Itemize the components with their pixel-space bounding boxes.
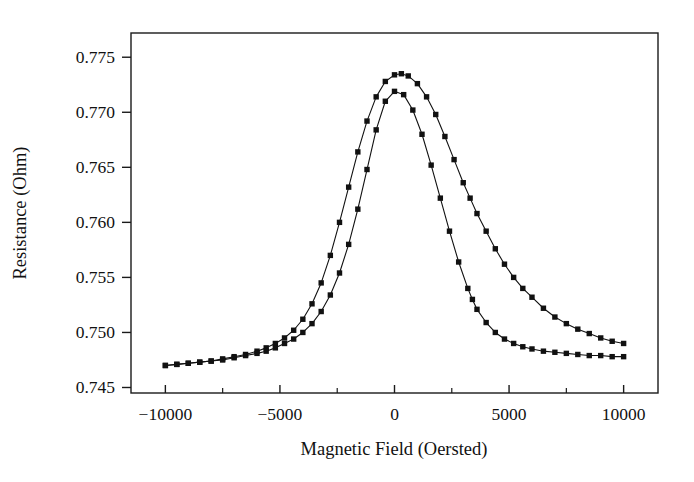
data-point-marker	[587, 353, 592, 358]
x-axis-ticks	[165, 385, 623, 393]
y-tick-label: 0.745	[76, 377, 116, 397]
plot-border	[131, 33, 658, 393]
x-axis-title: Magnetic Field (Oersted)	[301, 439, 488, 460]
data-point-marker	[552, 314, 557, 319]
data-series-layer	[163, 71, 627, 368]
data-point-marker	[529, 295, 534, 300]
y-tick-label: 0.755	[76, 267, 116, 287]
x-tick-label: 10000	[602, 404, 646, 424]
chart-page: −10000−50000500010000 0.7450.7500.7550.7…	[0, 0, 694, 482]
data-point-marker	[587, 331, 592, 336]
data-point-marker	[541, 306, 546, 311]
x-tick-label: −10000	[139, 404, 193, 424]
data-point-marker	[465, 286, 470, 291]
data-point-marker	[318, 280, 323, 285]
data-point-marker	[415, 81, 420, 86]
data-point-marker	[502, 336, 507, 341]
data-point-marker	[186, 361, 191, 366]
data-point-marker	[493, 330, 498, 335]
data-point-marker	[373, 127, 378, 132]
data-point-marker	[483, 228, 488, 233]
data-point-marker	[174, 362, 179, 367]
y-axis-ticks	[122, 57, 131, 387]
data-point-marker	[541, 348, 546, 353]
data-point-marker	[609, 354, 614, 359]
data-point-marker	[564, 351, 569, 356]
data-point-marker	[300, 330, 305, 335]
data-point-marker	[474, 307, 479, 312]
data-point-marker	[337, 270, 342, 275]
y-tick-label: 0.770	[76, 102, 116, 122]
data-point-marker	[318, 309, 323, 314]
data-point-marker	[470, 297, 475, 302]
series-ascending-sweep	[163, 71, 627, 368]
data-point-marker	[483, 320, 488, 325]
data-point-marker	[392, 89, 397, 94]
data-point-marker	[243, 353, 248, 358]
data-point-marker	[493, 246, 498, 251]
data-point-marker	[197, 359, 202, 364]
data-point-marker	[401, 92, 406, 97]
data-point-marker	[328, 253, 333, 258]
data-point-marker	[220, 357, 225, 362]
y-tick-label: 0.765	[76, 157, 116, 177]
data-point-marker	[346, 184, 351, 189]
data-point-marker	[373, 94, 378, 99]
data-point-marker	[328, 292, 333, 297]
x-tick-label: 5000	[492, 404, 527, 424]
data-point-marker	[447, 228, 452, 233]
data-point-marker	[451, 157, 456, 162]
data-point-marker	[474, 211, 479, 216]
data-point-marker	[520, 286, 525, 291]
data-point-marker	[355, 149, 360, 154]
x-tick-label: −5000	[257, 404, 302, 424]
data-point-marker	[209, 358, 214, 363]
x-tick-label: 0	[390, 404, 399, 424]
data-point-marker	[419, 132, 424, 137]
data-point-marker	[273, 345, 278, 350]
data-point-marker	[598, 335, 603, 340]
data-point-marker	[428, 162, 433, 167]
data-point-marker	[552, 350, 557, 355]
chart-canvas: −10000−50000500010000 0.7450.7500.7550.7…	[0, 0, 694, 482]
data-point-marker	[511, 341, 516, 346]
data-point-marker	[467, 195, 472, 200]
data-point-marker	[309, 321, 314, 326]
data-point-marker	[399, 71, 404, 76]
data-point-marker	[291, 336, 296, 341]
data-point-marker	[282, 335, 287, 340]
data-point-marker	[254, 351, 259, 356]
data-point-marker	[163, 363, 168, 368]
data-point-marker	[564, 321, 569, 326]
y-tick-label: 0.775	[76, 47, 116, 67]
series-line	[165, 91, 623, 365]
data-point-marker	[346, 242, 351, 247]
data-point-marker	[383, 99, 388, 104]
data-point-marker	[529, 346, 534, 351]
data-point-marker	[621, 341, 626, 346]
y-axis-tick-labels: 0.7450.7500.7550.7600.7650.7700.775	[76, 47, 116, 397]
data-point-marker	[309, 301, 314, 306]
data-point-marker	[461, 180, 466, 185]
x-axis-tick-labels: −10000−50000500010000	[139, 404, 646, 424]
data-point-marker	[355, 206, 360, 211]
data-point-marker	[300, 317, 305, 322]
data-point-marker	[575, 326, 580, 331]
data-point-marker	[598, 353, 603, 358]
data-point-marker	[456, 259, 461, 264]
data-point-marker	[392, 72, 397, 77]
data-point-marker	[438, 195, 443, 200]
y-tick-label: 0.760	[76, 212, 116, 232]
series-line	[165, 74, 623, 366]
magnetoresistance-figure: −10000−50000500010000 0.7450.7500.7550.7…	[0, 0, 694, 482]
data-point-marker	[520, 344, 525, 349]
data-point-marker	[442, 134, 447, 139]
data-point-marker	[621, 354, 626, 359]
series-descending-sweep	[163, 89, 627, 369]
data-point-marker	[231, 355, 236, 360]
data-point-marker	[609, 339, 614, 344]
data-point-marker	[406, 73, 411, 78]
data-point-marker	[263, 348, 268, 353]
data-point-marker	[502, 261, 507, 266]
data-point-marker	[433, 112, 438, 117]
